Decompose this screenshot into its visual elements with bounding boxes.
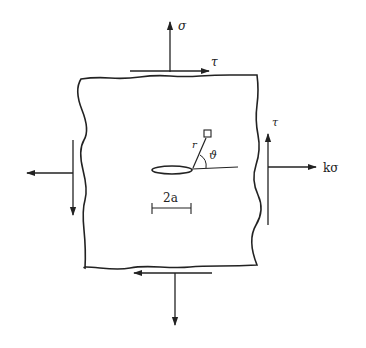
crack	[152, 166, 238, 174]
tau-right-label: τ	[272, 116, 279, 129]
k-sigma-label: kσ	[323, 161, 338, 175]
theta-arc	[200, 155, 206, 168]
polar-point-icon	[204, 130, 211, 137]
plate	[78, 75, 261, 269]
theta-label: ϑ	[209, 149, 217, 162]
sigma-top-label: σ	[178, 19, 187, 33]
crack-length-label: 2a	[163, 191, 178, 205]
crack-stress-diagram: r ϑ 2a σ τ τ kσ	[0, 0, 366, 348]
tau-top-label: τ	[211, 55, 218, 69]
r-label: r	[192, 139, 198, 150]
